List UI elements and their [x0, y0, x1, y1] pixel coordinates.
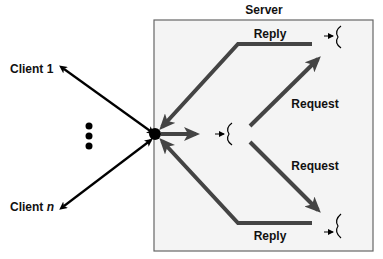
reply-top-label: Reply: [254, 27, 287, 41]
request-bottom-label: Request: [291, 159, 338, 173]
server-title: Server: [245, 3, 283, 17]
ellipsis-dot: [86, 143, 93, 150]
client-server-diagram: Server Client 1 Client n Reply Request R…: [0, 0, 383, 259]
client-1-connection-arrow: [64, 69, 153, 133]
ellipsis-dot: [86, 123, 93, 130]
client-n-label: Client n: [10, 200, 54, 214]
request-top-label: Request: [291, 97, 338, 111]
ellipsis-dot: [86, 133, 93, 140]
listening-socket-hub: [149, 128, 161, 140]
reply-bottom-label: Reply: [254, 229, 287, 243]
client-1-label: Client 1: [10, 62, 54, 76]
client-n-connection-arrow: [64, 140, 151, 206]
